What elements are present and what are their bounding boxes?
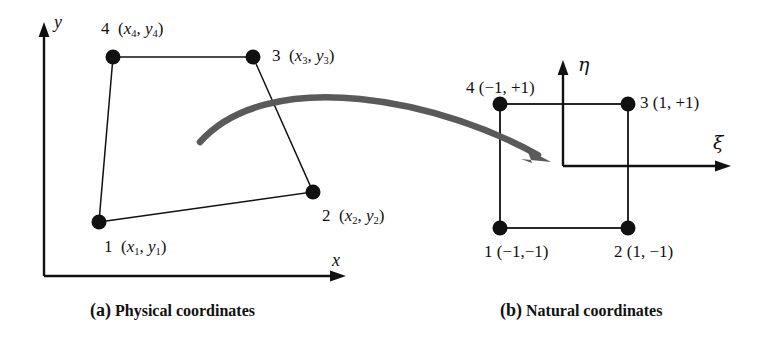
node-4-coords: (x4, y4) bbox=[114, 19, 164, 38]
node-2-number: 2 bbox=[322, 206, 331, 225]
node-3-marker bbox=[246, 50, 261, 65]
node-1-label: 1 (x1, y1) bbox=[104, 238, 166, 258]
xi-axis-arrowhead bbox=[715, 161, 731, 172]
node-1-marker-natural bbox=[493, 221, 508, 236]
node-2-marker-natural bbox=[621, 221, 636, 236]
node-2-marker bbox=[306, 185, 321, 200]
node-1-number: 1 bbox=[104, 237, 113, 256]
caption-panel-b: (b) Natural coordinates bbox=[500, 300, 662, 321]
y-axis-label: y bbox=[54, 12, 62, 33]
node-4-marker bbox=[106, 50, 121, 65]
node-3-label: 3 (x3, y3) bbox=[272, 47, 334, 67]
caption-b-tag: (b) bbox=[500, 300, 522, 320]
xi-axis-label: ξ bbox=[713, 131, 723, 153]
x-axis-label: x bbox=[332, 250, 340, 271]
caption-b-text: Natural coordinates bbox=[526, 302, 662, 319]
node-4-label-natural: 4 (−1, +1) bbox=[466, 79, 535, 96]
mapping-arrow-curve bbox=[200, 97, 538, 155]
eta-axis-label: η bbox=[578, 53, 589, 75]
node-3-marker-natural bbox=[621, 97, 636, 112]
node-2-coords: (x2, y2) bbox=[335, 206, 385, 225]
node-1-coords: (x1, y1) bbox=[117, 237, 167, 256]
node-4-number: 4 bbox=[101, 19, 110, 38]
node-4-label: 4 (x4, y4) bbox=[101, 20, 163, 40]
caption-a-tag: (a) bbox=[90, 300, 111, 320]
eta-axis-arrowhead bbox=[558, 60, 569, 75]
node-1-label-natural: 1 (−1,−1) bbox=[484, 243, 549, 260]
y-axis-arrowhead bbox=[39, 22, 50, 37]
node-2-label: 2 (x2, y2) bbox=[322, 207, 384, 227]
node-3-label-natural: 3 (1, +1) bbox=[640, 94, 699, 111]
node-4-marker-natural bbox=[493, 97, 508, 112]
figure-isoparametric-mapping: y x 4 (x4, y4) 3 (x3, y3) 2 (x2, y2) 1 (… bbox=[0, 0, 766, 340]
x-axis-arrowhead bbox=[330, 271, 346, 282]
panel-b-axes bbox=[558, 60, 731, 171]
node-2-label-natural: 2 (1, −1) bbox=[614, 243, 673, 260]
node-3-coords: (x3, y3) bbox=[285, 46, 335, 65]
caption-panel-a: (a) Physical coordinates bbox=[90, 300, 255, 321]
node-3-number: 3 bbox=[272, 46, 281, 65]
node-1-marker bbox=[92, 215, 107, 230]
caption-a-text: Physical coordinates bbox=[115, 302, 255, 319]
figure-vector-layer bbox=[0, 0, 766, 340]
